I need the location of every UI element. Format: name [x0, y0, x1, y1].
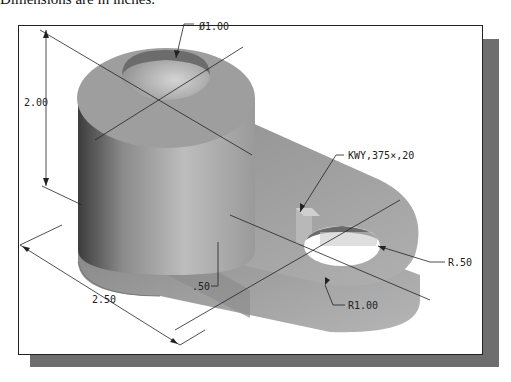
dim-height: 2.00 [24, 97, 48, 108]
boss-cylinder [77, 48, 255, 275]
dim-large-radius: R1.00 [348, 300, 378, 311]
dim-keyway: KWY,375×,20 [348, 150, 414, 161]
dim-thickness: .50 [192, 281, 210, 292]
dim-small-radius: R.50 [448, 257, 472, 268]
part-drawing: Ø1.00 2.00 KWY,375×,20 R.50 R1.00 2.50 .… [0, 0, 511, 382]
dim-length: 2.50 [92, 294, 116, 305]
dim-hole-diameter: Ø1.00 [199, 21, 229, 32]
small-hole [304, 226, 380, 266]
